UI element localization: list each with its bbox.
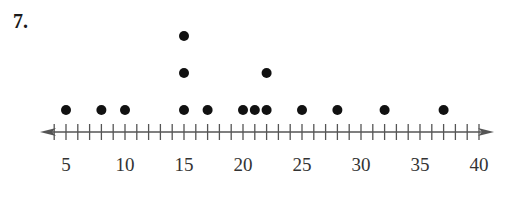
dot-plot: 510152025303540	[0, 0, 511, 199]
data-dot	[120, 105, 130, 115]
data-dot	[262, 68, 272, 78]
data-dot	[203, 105, 213, 115]
data-dot	[61, 105, 71, 115]
data-dot	[380, 105, 390, 115]
data-dot	[439, 105, 449, 115]
data-dot	[179, 105, 189, 115]
tick-label: 35	[411, 154, 430, 175]
data-dot	[238, 105, 248, 115]
data-dot	[179, 31, 189, 41]
data-dot	[96, 105, 106, 115]
data-dot	[179, 68, 189, 78]
tick-label: 20	[234, 154, 253, 175]
tick-label: 15	[175, 154, 194, 175]
tick-label: 30	[352, 154, 371, 175]
tick-label: 5	[61, 154, 71, 175]
tick-label: 10	[116, 154, 135, 175]
tick-label: 40	[470, 154, 489, 175]
data-dot	[332, 105, 342, 115]
data-dot	[250, 105, 260, 115]
tick-label: 25	[293, 154, 312, 175]
data-dot	[297, 105, 307, 115]
data-dot	[262, 105, 272, 115]
